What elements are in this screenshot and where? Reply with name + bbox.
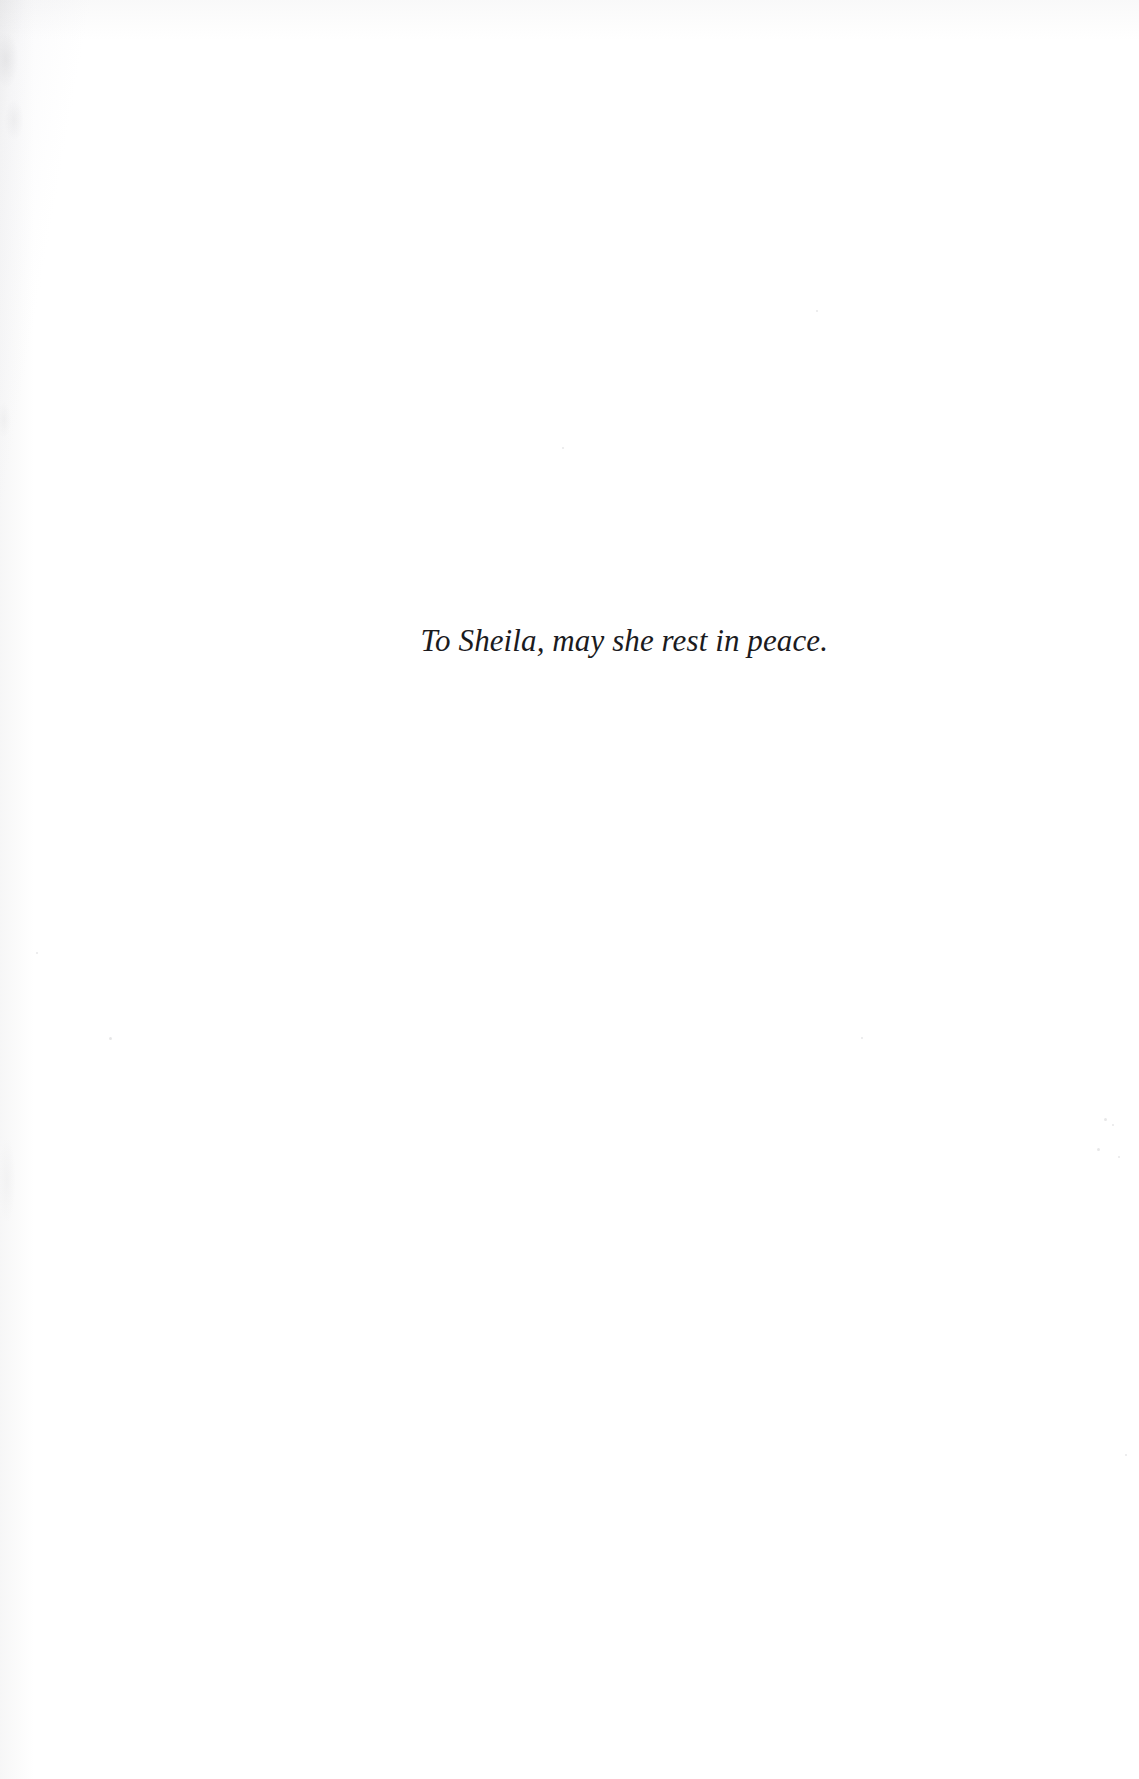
scan-speck: [562, 447, 564, 449]
scan-edge-shading-left: [0, 0, 34, 1779]
scan-speck: [109, 1037, 112, 1040]
scan-speck: [36, 952, 38, 954]
dedication-text: To Sheila, may she rest in peace.: [0, 621, 828, 661]
scan-speck: [816, 310, 818, 312]
scan-speck: [1104, 1118, 1107, 1121]
scan-speck: [1118, 1156, 1120, 1158]
scan-speck: [1125, 1454, 1127, 1456]
scan-speck: [1097, 1148, 1100, 1151]
scan-speck: [861, 1037, 863, 1039]
paper-texture: [0, 0, 1139, 1779]
scan-edge-shading-top: [0, 0, 1139, 40]
scan-speck: [1112, 1124, 1114, 1126]
dedication-page: To Sheila, may she rest in peace.: [0, 0, 1139, 1779]
